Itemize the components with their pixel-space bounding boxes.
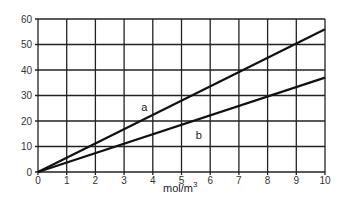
x-tick-label: 10 xyxy=(319,175,331,186)
y-tick-label: 20 xyxy=(21,116,33,127)
x-tick-label: 3 xyxy=(121,175,127,186)
x-tick-label: 9 xyxy=(294,175,300,186)
x-axis-label: mol/m3 xyxy=(163,180,198,194)
y-tick-label: 0 xyxy=(26,167,32,178)
x-tick-label: 8 xyxy=(265,175,271,186)
y-tick-label: 10 xyxy=(21,141,33,152)
x-tick-label: 6 xyxy=(207,175,213,186)
x-tick-label: 4 xyxy=(150,175,156,186)
x-tick-label: 7 xyxy=(236,175,242,186)
y-tick-label: 50 xyxy=(21,39,33,50)
line-chart: 012345678910 0102030405060 ab mol/m3 xyxy=(0,0,347,210)
y-axis-ticks: 0102030405060 xyxy=(21,14,33,178)
x-tick-label: 2 xyxy=(93,175,99,186)
x-tick-label: 1 xyxy=(64,175,70,186)
y-tick-label: 30 xyxy=(21,90,33,101)
series-label-b: b xyxy=(196,129,202,141)
y-tick-label: 40 xyxy=(21,65,33,76)
y-tick-label: 60 xyxy=(21,14,33,25)
series-label-a: a xyxy=(141,101,148,113)
x-tick-label: 0 xyxy=(35,175,41,186)
